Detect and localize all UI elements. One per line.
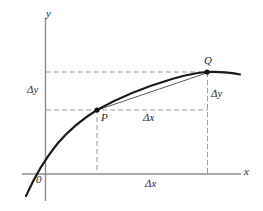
secant-line-pq — [96, 73, 208, 111]
origin-label: 0 — [36, 174, 42, 185]
y-axis-label: y — [46, 8, 51, 19]
delta-y-left-label: Δy — [27, 84, 38, 95]
delta-x-upper-label: Δx — [143, 112, 154, 123]
point-p-marker — [94, 107, 99, 112]
figure-canvas: y x 0 P Q Δy Δy Δx Δx — [0, 0, 263, 211]
delta-x-lower-label: Δx — [145, 178, 156, 189]
delta-y-right-label: Δy — [211, 88, 222, 99]
point-q-marker — [204, 69, 209, 74]
point-p-label: P — [101, 112, 108, 123]
point-q-label: Q — [204, 55, 212, 66]
x-axis-label: x — [244, 166, 249, 177]
